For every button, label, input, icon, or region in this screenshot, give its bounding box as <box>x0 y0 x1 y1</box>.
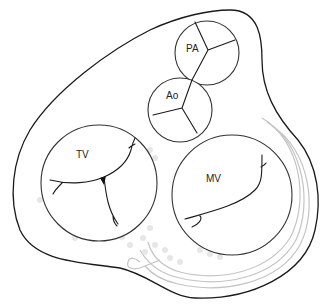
aortic-valve: Ao <box>148 78 212 142</box>
tv-label: TV <box>76 149 89 160</box>
pa-label: PA <box>186 43 199 54</box>
mitral-valve: MV <box>172 135 292 255</box>
ao-label: Ao <box>166 90 179 101</box>
mv-label: MV <box>206 173 221 184</box>
heart-valve-diagram: PA Ao TV MV <box>0 0 323 304</box>
tricuspid-valve: TV <box>41 125 157 241</box>
pulmonary-valve: PA <box>175 21 239 85</box>
